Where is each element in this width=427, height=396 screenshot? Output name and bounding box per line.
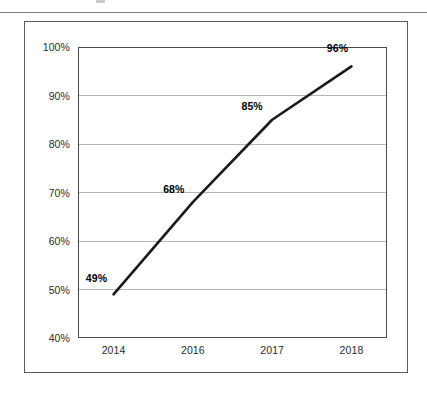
y-tick-label: 80% bbox=[24, 138, 70, 150]
data-point-label: 68% bbox=[163, 183, 184, 195]
y-tick-label: 50% bbox=[24, 284, 70, 296]
gridline bbox=[79, 144, 386, 145]
clipped-text-remnant bbox=[96, 0, 105, 3]
figure-frame: 40%50%60%70%80%90%100% 2014201620172018 … bbox=[24, 21, 408, 373]
y-tick-label: 60% bbox=[24, 235, 70, 247]
y-tick-label: 100% bbox=[24, 41, 70, 53]
data-point-label: 49% bbox=[86, 272, 107, 284]
y-tick-label: 90% bbox=[24, 90, 70, 102]
plot-area bbox=[78, 47, 387, 338]
x-tick-label: 2018 bbox=[340, 344, 364, 356]
data-point-label: 85% bbox=[241, 100, 262, 112]
gridline bbox=[79, 289, 386, 290]
x-tick-label: 2017 bbox=[260, 344, 284, 356]
y-tick-label: 40% bbox=[24, 332, 70, 344]
y-tick-label: 70% bbox=[24, 187, 70, 199]
gridline bbox=[79, 241, 386, 242]
x-tick-label: 2014 bbox=[102, 344, 126, 356]
line-chart: 40%50%60%70%80%90%100% 2014201620172018 … bbox=[25, 22, 409, 374]
gridline bbox=[79, 192, 386, 193]
gridline bbox=[79, 95, 386, 96]
data-point-label: 96% bbox=[327, 42, 348, 54]
top-horizontal-rule bbox=[0, 12, 427, 13]
x-tick-label: 2016 bbox=[181, 344, 205, 356]
